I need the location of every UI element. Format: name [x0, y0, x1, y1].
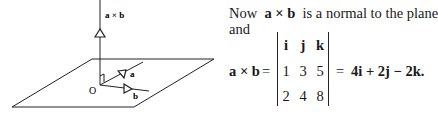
- det-cell: 2: [278, 89, 294, 104]
- label-origin: O: [89, 85, 96, 96]
- text-vector: a × b: [264, 5, 295, 21]
- cross-product-diagram: a × b a b O: [0, 0, 220, 118]
- det-cell: 3: [295, 64, 311, 79]
- label-normal: a × b: [105, 10, 124, 20]
- vector-a-arrow-icon: [118, 70, 126, 78]
- det-cell: k: [312, 38, 328, 53]
- det-cell: 8: [312, 89, 328, 104]
- plane: [12, 59, 214, 107]
- equals-sign-2: =: [336, 64, 344, 79]
- label-b: b: [133, 91, 138, 101]
- sentence-line-1: Now a × b is a normal to the plane: [229, 6, 438, 21]
- text-now: Now: [229, 5, 257, 21]
- det-cell: j: [295, 38, 311, 53]
- result-vector: 4i + 2j − 2k.: [351, 64, 424, 79]
- vector-b-arrow-icon: [124, 84, 132, 93]
- normal-arrow-icon: [95, 29, 105, 37]
- determinant: i j k 1 3 5 2 4 8: [277, 32, 329, 106]
- text-suffix: is a normal to the plane: [303, 5, 438, 21]
- right-angle-marker: [100, 74, 104, 82]
- det-cell: 5: [312, 64, 328, 79]
- lhs-cross-product: a × b: [229, 64, 260, 79]
- det-cell: 4: [295, 89, 311, 104]
- det-cell: 1: [278, 64, 294, 79]
- sentence-line-2: and: [229, 22, 250, 37]
- det-cell: i: [278, 38, 294, 53]
- label-a: a: [130, 69, 135, 79]
- equals-sign-1: =: [262, 64, 270, 79]
